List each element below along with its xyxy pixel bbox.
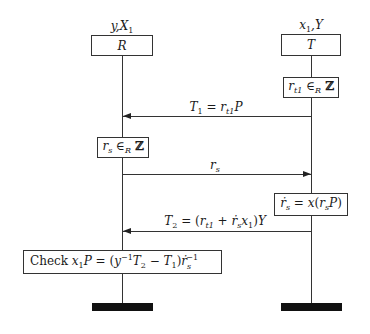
r-random-box: rs ∈R ℤ: [97, 137, 149, 158]
arrowhead-right-icon: [303, 171, 311, 177]
participant-t-label: T: [307, 38, 315, 52]
msg1-arrow: [123, 116, 311, 117]
lifeline-t-end-bar: [281, 303, 342, 311]
arrowhead-left-icon: [123, 228, 131, 234]
participant-t-box: T: [281, 34, 341, 56]
arrowhead-left-icon: [123, 113, 131, 119]
msg1-label: T1 = rt1P: [190, 100, 243, 116]
msg3-arrow: [123, 231, 311, 232]
verification-check-box: Check x1P = (y−1T2 − T1)ṙs−1: [23, 250, 222, 274]
participant-r-label: R: [117, 39, 126, 53]
msg2-label: rs: [210, 158, 220, 174]
lifeline-r-end-bar: [92, 303, 153, 311]
t-compute-box: ṙs = x(rsP): [274, 193, 348, 216]
msg3-label: T2 = (rt1 + ṙsx1)Y: [164, 214, 266, 230]
t-random-box: rt1 ∈R ℤ: [283, 77, 339, 98]
participant-r-knowledge: y,X1: [111, 19, 134, 35]
msg2-arrow: [122, 174, 311, 175]
participant-r-box: R: [91, 35, 153, 56]
participant-t-knowledge: x1,Y: [299, 18, 323, 34]
